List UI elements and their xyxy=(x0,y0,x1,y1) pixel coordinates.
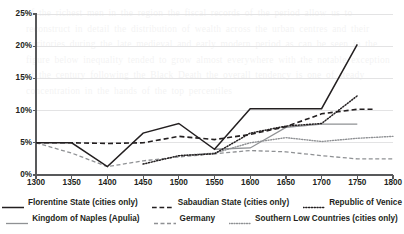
legend-label: Kingdom of Naples (Apulia) xyxy=(32,214,139,223)
plot-area xyxy=(36,14,393,175)
legend-item[interactable]: Florentine State (cities only) xyxy=(2,198,138,207)
x-tick-label: 1500 xyxy=(159,178,199,187)
legend-swatch-icon xyxy=(154,219,176,228)
legend-item[interactable]: Southern Low Countries (cities only) xyxy=(229,214,398,223)
chart-legend: Florentine State (cities only)Sabaudian … xyxy=(0,194,404,234)
series-line xyxy=(36,44,357,166)
legend-label: Republic of Venice xyxy=(329,198,402,207)
y-tick-label: 5% xyxy=(2,139,32,147)
x-tick-label: 1750 xyxy=(337,178,377,187)
x-tick-label: 1300 xyxy=(16,178,56,187)
legend-item[interactable]: Kingdom of Naples (Apulia) xyxy=(6,214,139,223)
legend-swatch xyxy=(229,214,251,223)
legend-swatch xyxy=(2,198,24,207)
series-line xyxy=(143,96,357,164)
legend-label: Southern Low Countries (cities only) xyxy=(255,214,398,223)
x-tick-label: 1800 xyxy=(373,178,404,187)
x-tick-label: 1600 xyxy=(230,178,270,187)
legend-swatch xyxy=(154,214,176,223)
legend-row: Florentine State (cities only)Sabaudian … xyxy=(0,194,404,211)
y-axis: 0%5%10%15%20%25% xyxy=(0,0,32,190)
legend-label: Germany xyxy=(180,214,216,223)
x-tick-label: 1700 xyxy=(302,178,342,187)
chart-lines xyxy=(36,14,393,175)
x-tick-label: 1400 xyxy=(87,178,127,187)
legend-label: Florentine State (cities only) xyxy=(28,198,138,207)
y-tick-label: 10% xyxy=(2,107,32,115)
legend-swatch-icon xyxy=(6,219,28,228)
legend-item[interactable]: Sabaudian State (cities only) xyxy=(152,198,289,207)
legend-item[interactable]: Republic of Venice xyxy=(303,198,402,207)
legend-label: Sabaudian State (cities only) xyxy=(178,198,289,207)
y-tick-label: 25% xyxy=(2,10,32,18)
series-line xyxy=(36,109,375,143)
legend-swatch-icon xyxy=(229,219,251,228)
chart-figure: of the richest men in the region the fis… xyxy=(0,0,404,234)
x-axis: 1300135014001450150015501600165017001750… xyxy=(36,178,393,190)
legend-swatch xyxy=(6,214,28,223)
x-tick-label: 1550 xyxy=(195,178,235,187)
legend-item[interactable]: Germany xyxy=(154,214,216,223)
y-tick-label: 20% xyxy=(2,42,32,50)
x-tick-label: 1650 xyxy=(266,178,306,187)
x-tick-label: 1450 xyxy=(123,178,163,187)
legend-row: Kingdom of Naples (Apulia)GermanySouther… xyxy=(0,210,404,227)
y-tick-label: 15% xyxy=(2,74,32,82)
legend-swatch xyxy=(152,198,174,207)
legend-swatch xyxy=(303,198,325,207)
x-tick-label: 1350 xyxy=(52,178,92,187)
